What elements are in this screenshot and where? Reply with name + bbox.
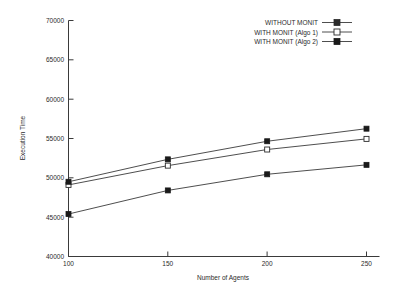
legend-marker-without-monit <box>334 20 340 26</box>
x-tick-label-200: 200 <box>262 260 273 267</box>
data-point-2-1 <box>165 157 170 162</box>
x-tick-label-150: 150 <box>162 260 173 267</box>
data-point-0-3 <box>364 162 369 167</box>
legend-marker-with-monit-algo2 <box>334 39 340 45</box>
y-tick-label-50000: 50000 <box>46 174 64 181</box>
chart-container: 40000 45000 50000 55000 60000 65000 7000… <box>0 0 393 292</box>
x-tick-label-250: 250 <box>361 260 372 267</box>
data-point-1-3 <box>364 136 369 141</box>
legend: WITHOUT MONIT WITH MONIT (Algo 1) WITH M… <box>254 19 352 46</box>
data-point-2-2 <box>265 139 270 144</box>
data-point-0-1 <box>165 188 170 193</box>
data-point-2-0 <box>66 179 71 184</box>
y-tick-label-45000: 45000 <box>46 214 64 221</box>
legend-label-without-monit: WITHOUT MONIT <box>265 19 318 26</box>
data-point-1-1 <box>165 163 170 168</box>
x-axis-title: Number of Agents <box>197 274 250 282</box>
legend-label-with-monit-algo2: WITH MONIT (Algo 2) <box>254 38 318 46</box>
data-point-0-0 <box>66 212 71 217</box>
y-tick-label-65000: 65000 <box>46 56 64 63</box>
legend-marker-with-monit-algo1 <box>334 29 340 35</box>
data-point-1-2 <box>265 147 270 152</box>
y-tick-label-70000: 70000 <box>46 17 64 24</box>
y-tick-label-55000: 55000 <box>46 135 64 142</box>
y-tick-label-60000: 60000 <box>46 96 64 103</box>
data-point-2-3 <box>364 126 369 131</box>
y-tick-label-40000: 40000 <box>46 253 64 260</box>
data-point-0-2 <box>265 172 270 177</box>
y-axis-title: Execution Time <box>19 115 26 160</box>
legend-label-with-monit-algo1: WITH MONIT (Algo 1) <box>254 29 318 37</box>
x-tick-label-100: 100 <box>63 260 74 267</box>
line-chart: 40000 45000 50000 55000 60000 65000 7000… <box>0 0 393 292</box>
